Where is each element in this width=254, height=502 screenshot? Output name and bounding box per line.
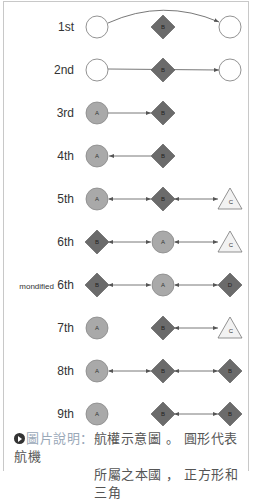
svg-text:B: B [161,196,165,202]
svg-text:A: A [95,110,99,116]
svg-text:A: A [95,196,99,202]
svg-text:B: B [161,67,165,73]
svg-text:C: C [229,242,234,248]
svg-text:C: C [229,199,234,205]
play-circle-icon [14,433,25,444]
svg-text:B: B [161,24,165,30]
svg-text:D: D [228,282,233,288]
svg-text:B: B [161,325,165,331]
svg-text:A: A [95,368,99,374]
svg-text:B: B [95,239,99,245]
caption-line-1: 圖片說明：航權示意圖 。 圓形代表航機 [14,430,246,466]
svg-text:B: B [161,368,165,374]
freedoms-diagram: B B A B A B A B C B A C B A D [0,0,254,430]
svg-text:A: A [95,411,99,417]
svg-text:B: B [228,368,232,374]
svg-text:C: C [229,328,234,334]
figure-caption: 圖片說明：航權示意圖 。 圓形代表航機 所屬之本國 ， 正方形和三角 [14,430,246,502]
svg-text:B: B [161,153,165,159]
svg-text:A: A [161,239,165,245]
country-circle-empty [86,16,108,38]
svg-text:B: B [228,411,232,417]
svg-text:A: A [161,282,165,288]
caption-label: 圖片說明： [26,431,94,446]
caption-line-2: 所屬之本國 ， 正方形和三角 [14,466,246,502]
svg-text:B: B [161,411,165,417]
svg-text:A: A [95,325,99,331]
svg-text:A: A [95,153,99,159]
svg-text:B: B [95,282,99,288]
country-circle-empty [219,16,241,38]
svg-text:B: B [161,110,165,116]
